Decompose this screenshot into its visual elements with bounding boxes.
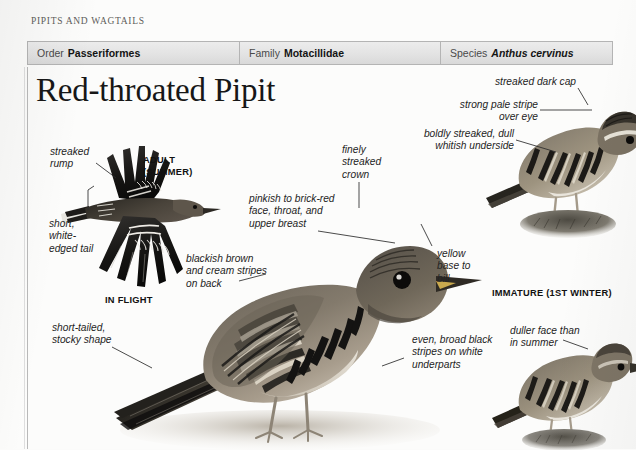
annotation-strong-pale-stripe-over-eye: strong pale stripe over eye	[398, 99, 538, 124]
caption-immature: IMMATURE (1ST WINTER)	[492, 288, 612, 300]
annotation-streaked-dark-cap: streaked dark cap	[398, 76, 576, 88]
family-value: Motacillidae	[284, 47, 344, 59]
annotation-even-broad-black-stripes: even, broad black stripes on white under…	[412, 334, 492, 371]
annotation-short-white-edged-tail: short, white- edged tail	[49, 218, 93, 255]
order-value: Passeriformes	[68, 47, 140, 59]
order-rank-label: Order	[37, 47, 64, 59]
running-head: PIPITS AND WAGTAILS	[31, 16, 145, 26]
annotation-streaked-rump: streaked rump	[50, 146, 89, 171]
species-value: Anthus cervinus	[491, 47, 573, 59]
taxonomy-cell-species: Species Anthus cervinus	[441, 42, 612, 64]
annotation-short-tailed-stocky-shape: short-tailed, stocky shape	[52, 322, 111, 347]
taxonomy-cell-family: Family Motacillidae	[240, 42, 441, 64]
page-title: Red-throated Pipit	[36, 72, 275, 109]
annotation-blackish-brown-cream-stripes: blackish brown and cream stripes on back	[186, 253, 267, 290]
taxonomy-bar: Order Passeriformes Family Motacillidae …	[27, 41, 613, 65]
caption-adult-summer: ADULT (SUMMER)	[143, 155, 193, 178]
caption-in-flight: IN FLIGHT	[105, 295, 153, 307]
page-rule-inner	[27, 67, 28, 449]
annotation-pinkish-brick-red-face: pinkish to brick-red face, throat, and u…	[249, 193, 335, 230]
annotation-duller-face-than-in-summer: duller face than in summer	[510, 325, 580, 350]
annotation-boldly-streaked-underside: boldly streaked, dull whitish underside	[356, 128, 514, 153]
family-rank-label: Family	[249, 47, 280, 59]
taxonomy-cell-order: Order Passeriformes	[28, 42, 240, 64]
species-rank-label: Species	[450, 47, 487, 59]
page-rule-outer	[24, 67, 25, 449]
annotation-yellow-base-to-bill: yellow base to bill	[437, 248, 470, 285]
